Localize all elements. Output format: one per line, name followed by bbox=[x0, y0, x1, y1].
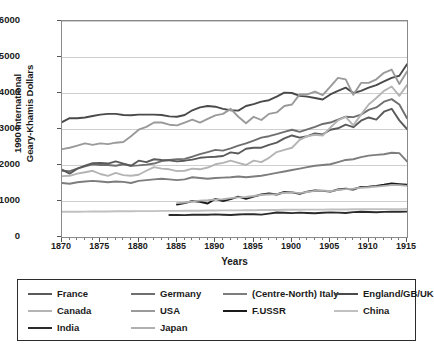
legend-label: China bbox=[363, 305, 389, 316]
x-tick-mark bbox=[145, 238, 146, 240]
legend-swatch-line bbox=[334, 293, 358, 295]
x-tick-mark bbox=[130, 238, 131, 240]
x-tick-mark bbox=[391, 238, 392, 240]
legend-swatch-line bbox=[131, 310, 155, 312]
x-tick-mark bbox=[61, 238, 62, 242]
series-line bbox=[62, 70, 407, 150]
legend-item[interactable]: F.USSR bbox=[213, 305, 286, 316]
x-tick-mark bbox=[375, 238, 376, 240]
x-tick-mark bbox=[184, 238, 185, 240]
y-tick-label: 3000 bbox=[0, 122, 20, 133]
y-tick-label: 4000 bbox=[0, 86, 20, 97]
x-tick-label: 1915 bbox=[386, 241, 426, 251]
x-tick-mark bbox=[69, 238, 70, 240]
x-tick-label: 1870 bbox=[41, 241, 81, 251]
x-tick-mark bbox=[230, 238, 231, 240]
legend-row: CanadaUSAF.USSRChina bbox=[18, 302, 415, 319]
x-tick-label: 1910 bbox=[348, 241, 388, 251]
y-axis-title-line2: Geary-Khamis Dollars bbox=[23, 29, 35, 199]
x-tick-mark bbox=[398, 238, 399, 240]
x-tick-mark bbox=[122, 238, 123, 240]
x-tick-mark bbox=[299, 238, 300, 240]
y-tick-label: 5000 bbox=[0, 50, 20, 61]
x-tick-mark bbox=[314, 238, 315, 240]
legend-label: Canada bbox=[57, 305, 91, 316]
legend-label: F.USSR bbox=[252, 305, 286, 316]
x-tick-mark bbox=[237, 238, 238, 240]
x-tick-mark bbox=[176, 238, 177, 242]
x-tick-label: 1905 bbox=[309, 241, 349, 251]
x-tick-mark bbox=[291, 238, 292, 242]
x-tick-mark bbox=[337, 238, 338, 240]
x-tick-mark bbox=[360, 238, 361, 240]
legend-label: England/GB/UK bbox=[363, 288, 434, 299]
x-tick-mark bbox=[352, 238, 353, 240]
series-line bbox=[169, 212, 407, 216]
x-tick-label: 1900 bbox=[271, 241, 311, 251]
series-line bbox=[177, 185, 407, 203]
series-lines bbox=[62, 21, 407, 237]
series-line bbox=[62, 109, 407, 174]
x-tick-mark bbox=[99, 238, 100, 242]
legend-item[interactable]: USA bbox=[121, 305, 180, 316]
legend-label: India bbox=[57, 322, 79, 333]
legend-item[interactable]: Japan bbox=[121, 322, 187, 333]
legend-label: Japan bbox=[160, 322, 187, 333]
x-tick-mark bbox=[214, 238, 215, 242]
x-axis-title: Years bbox=[61, 256, 408, 267]
legend-item[interactable]: India bbox=[18, 322, 79, 333]
x-tick-mark bbox=[406, 238, 407, 242]
x-tick-mark bbox=[84, 238, 85, 240]
legend: FranceGermany(Centre-North) ItalyEngland… bbox=[17, 279, 416, 341]
x-tick-mark bbox=[345, 238, 346, 240]
x-tick-mark bbox=[107, 238, 108, 240]
x-tick-mark bbox=[276, 238, 277, 240]
legend-swatch-line bbox=[28, 293, 52, 295]
x-tick-mark bbox=[191, 238, 192, 240]
legend-label: USA bbox=[160, 305, 180, 316]
x-tick-mark bbox=[199, 238, 200, 240]
x-tick-mark bbox=[322, 238, 323, 240]
x-tick-label: 1890 bbox=[194, 241, 234, 251]
x-tick-mark bbox=[329, 238, 330, 242]
legend-swatch-line bbox=[131, 293, 155, 295]
x-tick-mark bbox=[153, 238, 154, 240]
x-tick-mark bbox=[161, 238, 162, 240]
x-tick-mark bbox=[207, 238, 208, 240]
legend-item[interactable]: Canada bbox=[18, 305, 91, 316]
y-tick-label: 2000 bbox=[0, 158, 20, 169]
legend-item[interactable]: England/GB/UK bbox=[324, 288, 434, 299]
legend-item[interactable]: (Centre-North) Italy bbox=[213, 288, 339, 299]
legend-row: IndiaJapan bbox=[18, 319, 415, 336]
chart-area: 1990 International Geary-Khamis Dollars … bbox=[0, 0, 433, 278]
legend-swatch-line bbox=[28, 327, 52, 329]
legend-row: FranceGermany(Centre-North) ItalyEngland… bbox=[18, 285, 415, 302]
x-tick-mark bbox=[368, 238, 369, 242]
y-tick-label: 6000 bbox=[0, 14, 20, 25]
x-tick-label: 1875 bbox=[79, 241, 119, 251]
y-tick-label: 0 bbox=[0, 230, 20, 241]
legend-label: France bbox=[57, 288, 88, 299]
plot-area bbox=[61, 20, 408, 238]
x-tick-mark bbox=[268, 238, 269, 240]
legend-item[interactable]: China bbox=[324, 305, 389, 316]
x-tick-mark bbox=[138, 238, 139, 242]
x-tick-mark bbox=[168, 238, 169, 240]
legend-label: Germany bbox=[160, 288, 201, 299]
y-tick-label: 1000 bbox=[0, 194, 20, 205]
legend-item[interactable]: France bbox=[18, 288, 88, 299]
legend-swatch-line bbox=[131, 327, 155, 329]
x-tick-mark bbox=[222, 238, 223, 240]
x-tick-label: 1880 bbox=[118, 241, 158, 251]
series-line bbox=[62, 153, 407, 184]
x-tick-mark bbox=[76, 238, 77, 240]
x-tick-label: 1885 bbox=[156, 241, 196, 251]
x-tick-mark bbox=[260, 238, 261, 240]
legend-item[interactable]: Germany bbox=[121, 288, 201, 299]
legend-swatch-line bbox=[28, 310, 52, 312]
x-tick-mark bbox=[245, 238, 246, 240]
legend-swatch-line bbox=[223, 310, 247, 312]
x-tick-mark bbox=[115, 238, 116, 240]
x-tick-mark bbox=[92, 238, 93, 240]
